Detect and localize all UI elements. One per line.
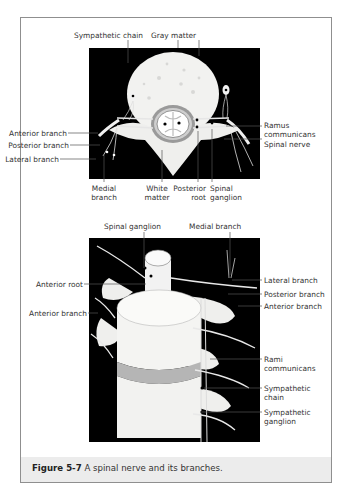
label-white-line2: matter <box>142 193 172 202</box>
label-symp-chain-line1: Sympathetic <box>264 384 311 393</box>
label-spinal-ganglion-line1: Spinal <box>210 184 242 193</box>
label-spinal-ganglion-bottom: Spinal ganglion <box>104 222 161 231</box>
caption-band: Figure 5-7 A spinal nerve and its branch… <box>21 457 331 482</box>
label-medial-line2: branch <box>83 193 125 202</box>
label-sympathetic-chain: Sympathetic chain <box>74 31 143 40</box>
label-posterior-branch-bottom: Posterior branch <box>264 290 325 299</box>
label-symp-ganglion-line2: ganglion <box>264 417 311 426</box>
label-rami-communicans: Rami communicans <box>264 355 316 373</box>
label-ramus-line1: Ramus <box>264 121 316 130</box>
label-anterior-branch-top: Anterior branch <box>9 129 67 138</box>
label-spinal-ganglion-top: Spinal ganglion <box>210 184 242 202</box>
label-lateral-branch-bottom: Lateral branch <box>264 276 318 285</box>
label-rami-line2: communicans <box>264 364 316 373</box>
label-medial-branch-bottom: Medial branch <box>189 222 241 231</box>
label-medial-branch-top: Medial branch <box>83 184 125 202</box>
label-posterior-root: Posterior root <box>170 184 206 202</box>
label-white-matter: White matter <box>142 184 172 202</box>
label-medial-line1: Medial <box>83 184 125 193</box>
label-ramus-communicans: Ramus communicans <box>264 121 316 139</box>
cross-section-illustration <box>89 48 260 179</box>
label-anterior-branch-right: Anterior branch <box>264 302 322 311</box>
label-symp-chain-line2: chain <box>264 393 311 402</box>
label-posterior-branch-top: Posterior branch <box>8 141 69 150</box>
figure-number: Figure 5-7 <box>32 463 82 473</box>
label-posterior-root-line1: Posterior <box>170 184 206 193</box>
label-symp-ganglion-line1: Sympathetic <box>264 408 311 417</box>
label-gray-matter: Gray matter <box>151 31 196 40</box>
figure-caption-text: A spinal nerve and its branches. <box>84 463 222 473</box>
label-white-line1: White <box>142 184 172 193</box>
vertebral-column-illustration <box>89 238 260 442</box>
figure-caption: Figure 5-7 A spinal nerve and its branch… <box>32 463 223 473</box>
label-posterior-root-line2: root <box>170 193 206 202</box>
label-sympathetic-chain-bottom: Sympathetic chain <box>264 384 311 402</box>
label-ramus-line2: communicans <box>264 130 316 139</box>
label-lateral-branch-top: Lateral branch <box>5 155 59 164</box>
label-anterior-root: Anterior root <box>36 280 83 289</box>
label-spinal-ganglion-line2: ganglion <box>210 193 242 202</box>
label-sympathetic-ganglion: Sympathetic ganglion <box>264 408 311 426</box>
label-anterior-branch-left: Anterior branch <box>29 309 87 318</box>
label-spinal-nerve: Spinal nerve <box>264 140 310 149</box>
label-rami-line1: Rami <box>264 355 316 364</box>
